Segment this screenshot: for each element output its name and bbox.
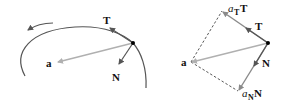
left-panel: T N a xyxy=(21,14,146,88)
label-N: N xyxy=(262,57,270,69)
point-on-curve xyxy=(131,41,135,45)
label-N: N xyxy=(112,71,120,83)
right-panel: T N a a T T a N N xyxy=(181,2,270,102)
label-T: T xyxy=(255,20,263,32)
motion-direction-arrow-icon xyxy=(28,23,53,30)
svg-text:N: N xyxy=(254,87,262,99)
dashed-side-bottom xyxy=(191,62,238,91)
point-on-curve xyxy=(266,41,270,45)
acceleration-vector xyxy=(192,43,268,62)
label-T: T xyxy=(103,14,111,26)
svg-text:T: T xyxy=(240,2,248,14)
unit-tangent-vector xyxy=(110,28,133,43)
label-tangential-component: a T T xyxy=(228,2,248,17)
tangential-normal-acceleration-diagram: T N a T N a a T T a N N xyxy=(0,0,286,102)
label-normal-component: a N N xyxy=(242,87,262,102)
dashed-side-top xyxy=(191,11,222,62)
trajectory-curve xyxy=(21,27,146,88)
label-a: a xyxy=(181,56,187,68)
label-a: a xyxy=(46,57,52,69)
